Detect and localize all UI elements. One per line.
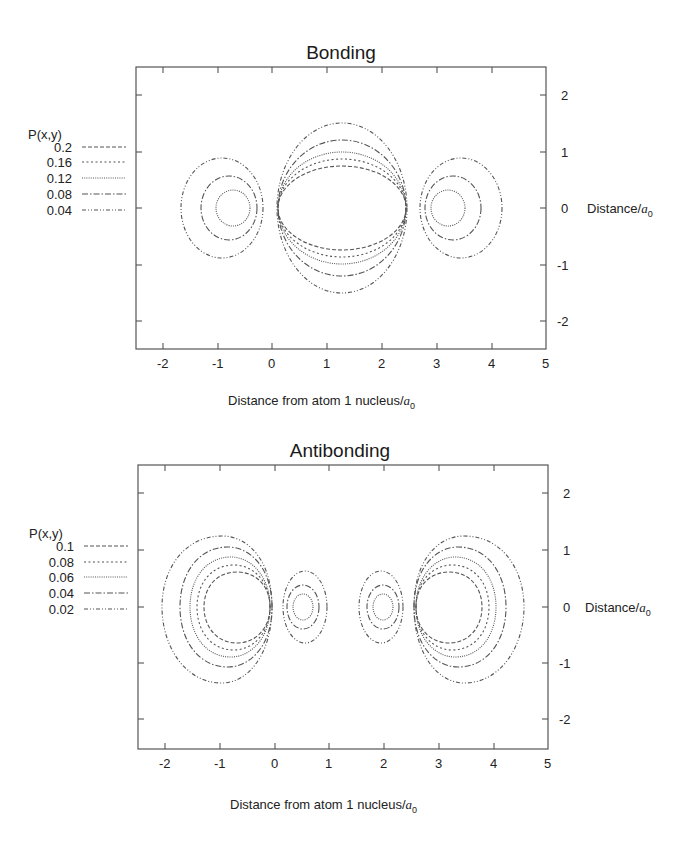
- antibonding-legend-item: 0.08: [28, 556, 74, 569]
- bonding-plot-frame: [136, 67, 546, 349]
- y-tick-label: 0: [563, 600, 570, 615]
- bonding-legend-lines: [82, 147, 126, 210]
- x-tick-label: 2: [378, 356, 385, 371]
- bonding-x-axis-label: Distance from atom 1 nucleus/a0: [228, 393, 415, 411]
- x-tick-label: 5: [544, 756, 551, 771]
- x-tick-label: 0: [271, 756, 278, 771]
- antibonding-legend-item: 0.02: [28, 603, 74, 616]
- y-tick-label: 2: [563, 486, 570, 501]
- antibonding-legend-item: 0.06: [28, 571, 74, 584]
- y-tick-label: -1: [557, 258, 569, 273]
- x-tick-label: 0: [268, 356, 275, 371]
- bonding-legend-item: 0.2: [26, 141, 72, 154]
- x-tick-label: 5: [542, 356, 549, 371]
- antibonding-title: Antibonding: [190, 440, 490, 462]
- antibonding-contours: [162, 536, 524, 683]
- x-tick-label: 2: [380, 756, 387, 771]
- bonding-contours: [181, 123, 502, 293]
- antibonding-legend-item: 0.1: [28, 540, 74, 553]
- x-tick-label: 3: [433, 356, 440, 371]
- bonding-legend-item: 0.08: [26, 188, 72, 201]
- bonding-legend-item: 0.12: [26, 172, 72, 185]
- antibonding-plot-frame: [138, 465, 548, 749]
- antibonding-x-axis-label: Distance from atom 1 nucleus/a0: [230, 797, 417, 815]
- chart-canvas: .c { fill: none; stroke: #555; stroke-wi…: [0, 0, 697, 845]
- y-tick-label: 2: [561, 88, 568, 103]
- x-tick-label: 1: [323, 356, 330, 371]
- antibonding-legend-lines: [84, 546, 128, 609]
- x-tick-label: 3: [435, 756, 442, 771]
- bonding-legend-item: 0.04: [26, 204, 72, 217]
- y-tick-label: -2: [559, 712, 571, 727]
- y-tick-label: -1: [559, 656, 571, 671]
- x-tick-label: -2: [157, 356, 169, 371]
- y-tick-label: -2: [557, 314, 569, 329]
- x-tick-label: -1: [212, 356, 224, 371]
- antibonding-y-axis-label: Distance/a0: [585, 600, 651, 618]
- y-tick-label: 0: [561, 201, 568, 216]
- bonding-legend-item: 0.16: [26, 156, 72, 169]
- x-tick-label: 1: [325, 756, 332, 771]
- y-tick-label: 1: [561, 145, 568, 160]
- x-tick-label: -2: [159, 756, 171, 771]
- antibonding-legend-item: 0.04: [28, 587, 74, 600]
- x-tick-label: 4: [488, 356, 495, 371]
- y-tick-label: 1: [563, 543, 570, 558]
- bonding-y-axis-label: Distance/a0: [587, 201, 653, 219]
- x-tick-label: 4: [490, 756, 497, 771]
- x-tick-label: -1: [214, 756, 226, 771]
